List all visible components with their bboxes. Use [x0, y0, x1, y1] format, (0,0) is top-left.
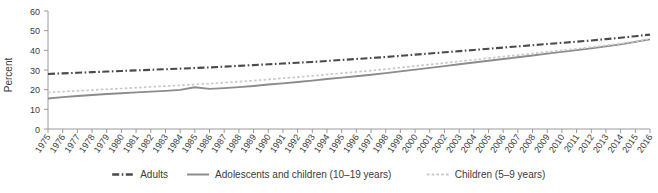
chart-legend: AdultsAdolescents and children (10–19 ye… — [112, 169, 545, 180]
y-axis: 0102030405060 — [30, 7, 48, 135]
y-tick-label: 10 — [30, 105, 40, 115]
x-tick-label: 2016 — [635, 132, 655, 154]
legend-item-2[interactable]: Adolescents and children (10–19 years) — [187, 169, 391, 180]
legend-item-1[interactable]: Adults — [112, 169, 168, 180]
legend-label-3: Children (5–9 years) — [455, 169, 546, 180]
y-axis-title: Percent — [3, 58, 14, 93]
x-axis: 1975197619771978197919801981198219831984… — [33, 129, 655, 155]
y-tick-label: 0 — [35, 125, 40, 135]
series-line-2 — [48, 39, 650, 98]
legend-label-2: Adolescents and children (10–19 years) — [215, 169, 391, 180]
x-tick-label: 2010 — [547, 132, 567, 154]
y-tick-label: 60 — [30, 7, 40, 17]
y-tick-label: 40 — [30, 46, 40, 56]
percent-trend-line-chart: 0102030405060 19751976197719781979198019… — [0, 0, 658, 193]
y-tick-label: 30 — [30, 66, 40, 76]
legend-item-3[interactable]: Children (5–9 years) — [427, 169, 546, 180]
y-tick-label: 50 — [30, 26, 40, 36]
series-line-3 — [48, 39, 650, 92]
legend-label-1: Adults — [140, 169, 168, 180]
chart-canvas: 0102030405060 19751976197719781979198019… — [0, 0, 658, 193]
y-tick-label: 20 — [30, 85, 40, 95]
series-lines — [48, 35, 650, 99]
series-line-1 — [48, 35, 650, 74]
